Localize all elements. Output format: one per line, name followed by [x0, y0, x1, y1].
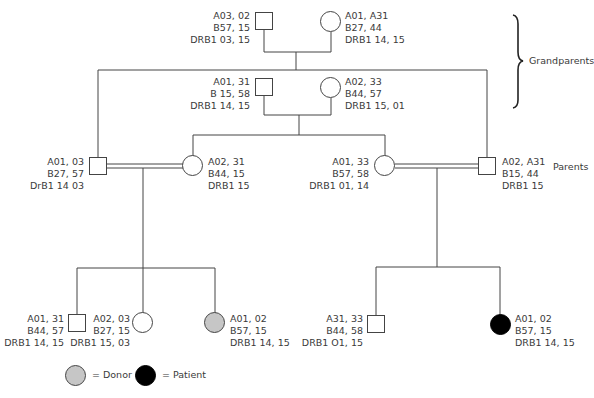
patient-child-hla: A01, 02 B57, 15 DRB1 14, 15: [515, 313, 575, 349]
child-left-2-hla: A02, 03 B27, 15 DRB1 15, 03: [70, 313, 130, 349]
generation-label-parents: Parents: [553, 161, 588, 172]
child-right-1-hla: A31, 33 B44, 58 DRB1 O1, 15: [302, 313, 363, 349]
mother-right-symbol: [374, 155, 395, 176]
grandmother-paternal-symbol: [320, 11, 341, 32]
mother-left-hla: A02, 31 B44, 15 DRB1 15: [208, 156, 250, 192]
grandfather-paternal-symbol: [255, 12, 273, 30]
grandfather-paternal-hla: A03, 02 B57, 15 DRB1 03, 15: [190, 10, 250, 46]
legend-patient-label: = Patient: [162, 369, 206, 380]
child-right-1-symbol: [367, 315, 385, 333]
grandfather-maternal-hla: A01, 31 B 15, 58 DRB1 14, 15: [190, 76, 250, 112]
father-right-hla: A02, A31 B15, 44 DRB1 15: [502, 156, 545, 192]
grandmother-paternal-hla: A01, A31 B27, 44 DRB1 14, 15: [345, 10, 405, 46]
donor-child-symbol: [204, 312, 225, 333]
donor-child-hla: A01, 02 B57, 15 DRB1 14, 15: [230, 313, 290, 349]
mother-left-symbol: [182, 155, 203, 176]
patient-child-symbol: [490, 314, 511, 335]
grandmother-maternal-hla: A02, 33 B44, 57 DRB1 15, 01: [345, 76, 405, 112]
father-left-symbol: [89, 157, 107, 175]
child-left-1-hla: A01, 31 B44, 57 DRB1 14, 15: [4, 313, 64, 349]
legend-donor-label: = Donor: [92, 369, 132, 380]
father-right-symbol: [478, 157, 496, 175]
father-left-hla: A01, 03 B27, 57 DrB1 14 03: [30, 156, 84, 192]
grandmother-maternal-symbol: [320, 77, 341, 98]
child-left-2-symbol: [132, 312, 153, 333]
grandfather-maternal-symbol: [255, 78, 273, 96]
legend-donor-icon: [65, 365, 86, 386]
mother-right-hla: A01, 33 B57, 58 DRB1 01, 14: [309, 156, 369, 192]
legend-patient-icon: [135, 365, 156, 386]
generation-label-grandparents: Grandparents: [529, 55, 594, 66]
